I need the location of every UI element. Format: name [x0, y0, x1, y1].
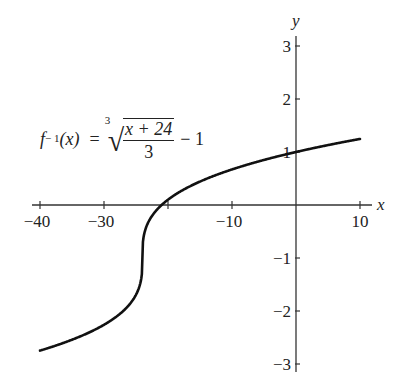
- fraction-numerator: x + 24: [123, 118, 174, 141]
- x-tick-label: 10: [352, 212, 369, 231]
- y-tick-label: −2: [273, 302, 291, 321]
- fraction-denominator: 3: [144, 141, 153, 161]
- x-tick-label: −10: [216, 212, 243, 231]
- y-tick-label: 2: [283, 90, 292, 109]
- formula-equals: =: [89, 129, 99, 150]
- x-tick-label: −30: [88, 212, 115, 231]
- inverse-function-curve: [40, 139, 360, 351]
- fraction: x + 24 3: [123, 118, 174, 161]
- y-tick-label: −3: [273, 355, 291, 374]
- radical-sign-icon: √: [108, 122, 124, 158]
- chart-canvas: −40−30−1010 321−1−2−3 x y: [0, 0, 401, 384]
- formula-inverse-sup: − 1: [45, 132, 59, 144]
- y-axis-label: y: [290, 11, 300, 30]
- formula-tail: − 1: [180, 129, 204, 150]
- y-tick-label: −1: [273, 249, 291, 268]
- x-tick-label: −40: [24, 212, 51, 231]
- y-tick-label: 3: [283, 37, 292, 56]
- formula-arg: (x): [59, 129, 79, 150]
- x-axis-label: x: [376, 195, 385, 214]
- function-formula: f − 1 (x) = 3 √ x + 24 3 − 1: [40, 118, 204, 161]
- cube-root: 3 √ x + 24 3: [106, 118, 175, 161]
- x-tick-labels: −40−30−1010: [24, 212, 369, 231]
